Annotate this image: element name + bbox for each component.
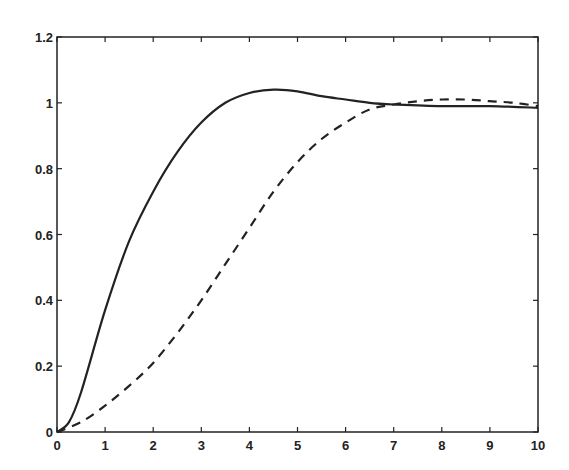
x-tick-label: 0 <box>53 438 60 453</box>
y-tick-label: 0 <box>46 425 53 440</box>
y-axis-ticks: 00.20.40.60.811.2 <box>35 30 538 440</box>
x-tick-label: 2 <box>150 438 157 453</box>
y-tick-label: 1 <box>46 96 53 111</box>
x-tick-label: 4 <box>246 438 254 453</box>
x-tick-label: 3 <box>198 438 205 453</box>
x-tick-label: 8 <box>438 438 445 453</box>
step-response-chart: 012345678910 00.20.40.60.811.2 <box>0 0 569 470</box>
y-tick-label: 0.6 <box>35 228 53 243</box>
plot-frame <box>57 37 538 432</box>
y-tick-label: 0.2 <box>35 359 53 374</box>
y-tick-label: 0.8 <box>35 162 53 177</box>
dashed-line <box>57 99 538 432</box>
x-tick-label: 9 <box>486 438 493 453</box>
data-series <box>57 90 538 432</box>
y-tick-label: 1.2 <box>35 30 53 45</box>
x-tick-label: 1 <box>101 438 108 453</box>
solid-line <box>57 90 538 432</box>
y-tick-label: 0.4 <box>35 293 54 308</box>
x-tick-label: 10 <box>531 438 545 453</box>
x-tick-label: 6 <box>342 438 349 453</box>
x-tick-label: 5 <box>294 438 301 453</box>
x-tick-label: 7 <box>390 438 397 453</box>
